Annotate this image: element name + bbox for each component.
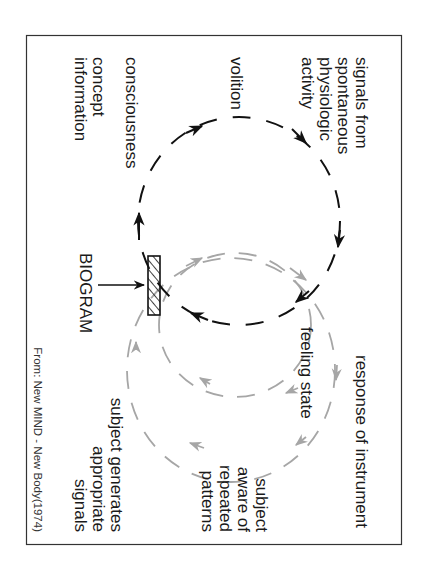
label-signals-line: spontaneous xyxy=(334,57,353,154)
primary-loop xyxy=(138,117,340,325)
label-aware-line: repeated xyxy=(216,465,235,532)
label-volition: volition xyxy=(227,57,246,110)
label-signals-line: physiologic xyxy=(316,57,335,142)
label-generates-line: subject generates xyxy=(107,398,126,532)
label-subject-aware: subject aware of repeated patterns xyxy=(198,465,271,532)
label-response-of-instrument: response of instrument xyxy=(352,355,371,528)
label-aware-line: patterns xyxy=(198,471,217,532)
label-signals-line: activity xyxy=(298,57,317,109)
label-feeling-state: feeling state xyxy=(297,327,316,419)
feedback-loop-inner xyxy=(159,253,311,397)
label-generates-line: appropriate xyxy=(89,446,108,532)
label-concept: concept information xyxy=(71,57,108,141)
label-signals: signals from spontaneous physiologic act… xyxy=(298,57,371,154)
label-signals-line: signals from xyxy=(352,57,371,149)
label-concept-line: information xyxy=(71,57,90,141)
label-subject-generates: subject generates appropriate signals xyxy=(71,398,126,532)
label-biogram: BIOGRAM xyxy=(76,253,95,333)
biogram-block xyxy=(148,256,160,315)
label-aware-line: aware of xyxy=(234,467,253,532)
label-concept-line: concept xyxy=(89,57,108,117)
label-consciousness: consciousness xyxy=(122,57,141,169)
source-footer: From: New MIND - New Body(1974) xyxy=(32,347,44,532)
label-generates-line: signals xyxy=(71,479,90,532)
biogram-diagram: signals from spontaneous physiologic act… xyxy=(0,0,425,573)
primary-arrows xyxy=(139,126,340,320)
label-aware-line: subject xyxy=(252,478,271,532)
